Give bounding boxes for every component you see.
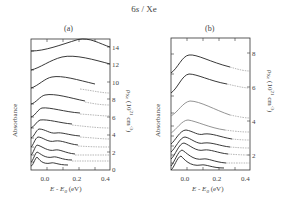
- panel-a-ytick-12: 12: [112, 61, 120, 69]
- panel-b-xtick-0.2: 0.2: [213, 175, 222, 183]
- panel-a-ytick-14: 14: [112, 44, 120, 52]
- panel-a-xtick-0: 0.0: [41, 175, 50, 183]
- panel-b-ylabel-right: ρXe (1021 cm-3): [266, 70, 275, 113]
- panel-a-ytick-4: 4: [112, 131, 116, 139]
- panel-a-ytick-8: 8: [112, 96, 116, 104]
- chart-canvas: 14 12 10 8 6 4 2 0 0.0 0.2 0.4 E - E0 (e…: [0, 0, 288, 204]
- panel-b-xtick-0: 0.0: [181, 175, 190, 183]
- panel-b-xlabel: E - E0 (eV): [191, 185, 224, 194]
- panel-b-ytick-2: 2: [252, 152, 256, 160]
- panel-b-ytick-6: 6: [252, 84, 256, 92]
- panel-b: 8 6 4 2 0.0 0.2 0.4 E - E0 (eV) Absorban…: [154, 38, 275, 194]
- panel-a-xlabel: E - E0 (eV): [49, 185, 82, 194]
- panel-b-ytick-8: 8: [252, 50, 256, 58]
- panel-b-ylabel-left: Absorbance: [154, 104, 162, 137]
- panel-a-ylabel-right: ρXe (1021 cm-3): [125, 90, 134, 133]
- panel-a-ytick-0: 0: [112, 166, 116, 174]
- panel-a-ytick-6: 6: [112, 114, 116, 122]
- panel-b-xtick-0.4: 0.4: [241, 175, 250, 183]
- panel-b-ytick-4: 4: [252, 118, 256, 126]
- panel-a-ylabel-left: Absorbance: [11, 104, 19, 137]
- panel-a-right-ticks: [107, 47, 110, 152]
- panel-a-xtick-0.4: 0.4: [101, 175, 110, 183]
- panel-b-curves: [171, 55, 232, 170]
- panel-a-ytick-10: 10: [112, 79, 120, 87]
- panel-a-ytick-2: 2: [112, 149, 116, 157]
- panel-a-xtick-0.2: 0.2: [73, 175, 82, 183]
- panel-a: 14 12 10 8 6 4 2 0 0.0 0.2 0.4 E - E0 (e…: [11, 39, 134, 194]
